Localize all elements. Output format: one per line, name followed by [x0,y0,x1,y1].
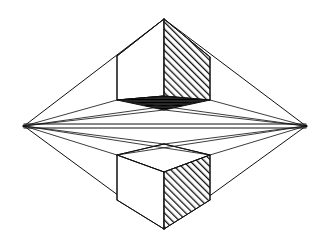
right-vanishing-point-marker [304,124,307,127]
left-vanishing-point-marker [22,124,25,127]
perspective-drawing-canvas [0,0,331,247]
perspective-drawing-figure [0,0,331,247]
